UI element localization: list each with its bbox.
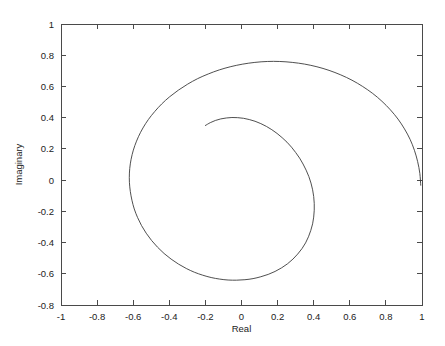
y-tick-label: 0.8 [41,50,54,61]
figure-container: -1-0.8-0.6-0.4-0.200.20.40.60.81 -0.8-0.… [0,0,445,346]
x-tick-label: -0.8 [89,311,105,322]
y-tick-label: 1 [49,19,54,30]
y-tick-label: 0 [49,175,54,186]
x-tick-label: -0.4 [161,311,177,322]
y-axis-label: Imaginary [13,143,24,185]
y-tick-label: 0.2 [41,143,54,154]
y-tick-label: 0.4 [41,112,54,123]
x-tick-label: 0.8 [379,311,392,322]
x-tick-label: 0.6 [343,311,356,322]
x-tick-label: 0.4 [307,311,320,322]
x-tick-label: -1 [57,311,65,322]
x-tick-label: 0.2 [271,311,284,322]
y-tick-label: -0.4 [38,237,54,248]
x-tick-label: 1 [419,311,424,322]
x-tick-label: -0.6 [125,311,141,322]
y-tick-label: -0.8 [38,300,54,311]
y-tick-label: 0.6 [41,81,54,92]
plot-background [0,0,445,346]
complex-plane-spiral-plot: -1-0.8-0.6-0.4-0.200.20.40.60.81 -0.8-0.… [0,0,445,346]
y-tick-label: -0.2 [38,206,54,217]
x-tick-label: 0 [239,311,244,322]
x-tick-label: -0.2 [197,311,213,322]
x-axis-label: Real [232,323,252,334]
y-tick-label: -0.6 [38,268,54,279]
